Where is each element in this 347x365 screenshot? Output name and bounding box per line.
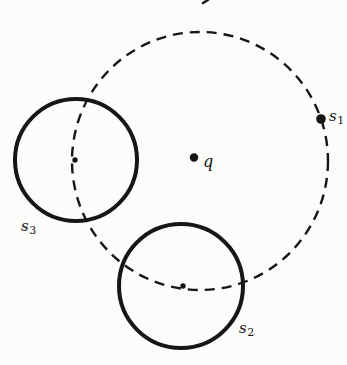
label-s1: s1 xyxy=(329,109,344,126)
label-q-base: q xyxy=(203,152,213,171)
label-s3: s3 xyxy=(21,219,36,236)
label-s2-subscript: 2 xyxy=(247,326,254,339)
label-s2-base: s xyxy=(239,319,247,337)
s3-center-dot xyxy=(72,157,77,162)
label-s3-subscript: 3 xyxy=(29,224,36,237)
top-edge-artifact xyxy=(203,0,208,3)
dashed-query-range-circle xyxy=(72,32,328,290)
figure-canvas xyxy=(0,0,347,365)
s2-center-dot xyxy=(180,283,185,288)
label-s2: s2 xyxy=(239,321,254,338)
label-s1-subscript: 1 xyxy=(337,114,344,127)
label-q: q xyxy=(203,154,213,170)
label-s1-base: s xyxy=(329,107,337,125)
query-point-q-dot xyxy=(190,153,198,161)
point-s1-dot xyxy=(316,114,326,124)
label-s3-base: s xyxy=(21,217,29,235)
range-query-figure: q s1 s3 s2 xyxy=(0,0,347,365)
